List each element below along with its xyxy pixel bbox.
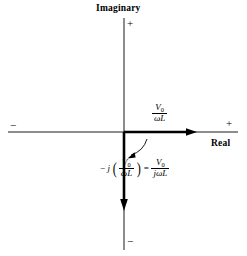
real-negative-sign: − <box>10 120 16 131</box>
equation-lhs-fraction: V0 ωL <box>119 158 134 178</box>
diagram-vector-layer <box>0 0 247 256</box>
equation-j-symbol: j <box>108 164 111 173</box>
real-phasor-numerator-subscript: 0 <box>161 106 164 113</box>
real-phasor-denominator: ωL <box>152 114 167 123</box>
real-axis-label: Real <box>211 139 230 149</box>
equation-lhs-denominator-l: L <box>127 168 132 178</box>
equation-rhs-denominator: jωL <box>151 169 169 178</box>
equation-rhs-numerator-subscript: 0 <box>161 161 164 168</box>
real-phasor-fraction: V0 ωL <box>152 103 167 123</box>
real-phasor-label: V0 ωL <box>152 103 167 123</box>
equation-equals-sign: = <box>143 164 150 173</box>
complex-plane-phasor-diagram: Imaginary + − − + Real V0 ωL − j ( V0 ωL… <box>0 0 247 256</box>
rotation-arc <box>128 139 148 159</box>
imaginary-axis-label: Imaginary <box>96 4 141 14</box>
equation-minus-sign: − <box>99 164 106 173</box>
equation-lhs-numerator-subscript: 0 <box>128 161 131 168</box>
real-phasor-arrow <box>124 128 197 136</box>
equation-close-paren: ) <box>136 161 140 176</box>
imaginary-negative-sign: − <box>127 236 133 247</box>
equation-rhs-fraction: V0 jωL <box>151 158 169 178</box>
equation-lhs-denominator: ωL <box>119 169 134 178</box>
equation-rhs-denominator-l: L <box>162 168 167 178</box>
real-phasor-denominator-l: L <box>160 113 165 123</box>
real-positive-sign: + <box>226 118 232 129</box>
imaginary-positive-sign: + <box>127 18 133 29</box>
phasor-equation: − j ( V0 ωL ) = V0 jωL <box>99 158 169 178</box>
equation-open-paren: ( <box>112 161 116 176</box>
